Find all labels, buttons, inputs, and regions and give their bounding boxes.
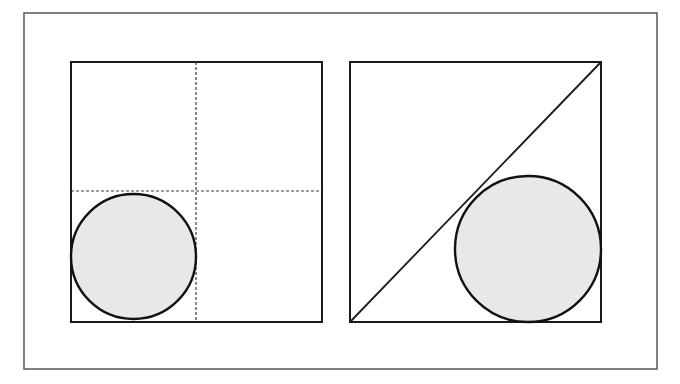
figure-background [0, 0, 680, 384]
figure-canvas [0, 0, 680, 384]
geometry-figure [0, 0, 680, 384]
left-inscribed-circle [71, 194, 196, 319]
right-tangent-circle [455, 176, 601, 322]
